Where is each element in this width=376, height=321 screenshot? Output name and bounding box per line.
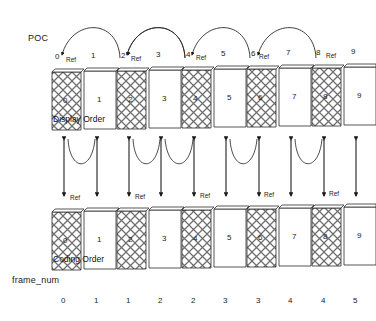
poc-ref-label-0: Ref: [66, 56, 76, 63]
poc-ref-label-3: Ref: [259, 53, 269, 60]
coding-box-label-2: 2: [128, 235, 132, 244]
poc-axis-title: POC: [28, 34, 48, 43]
poc-tick-6: 6: [251, 49, 255, 58]
order-mapping-arrows: [64, 140, 356, 196]
frame-num-axis-title: frame_num: [12, 276, 59, 285]
poc-tick-8: 8: [316, 48, 320, 57]
frame-num-tick-5: 3: [223, 296, 227, 305]
poc-tick-3: 3: [156, 50, 160, 59]
coding-order-title: Coding Order: [53, 254, 104, 264]
poc-tick-7: 7: [286, 48, 290, 57]
coding-box-label-7: 7: [292, 232, 296, 241]
coding-box-label-1: 1: [97, 235, 101, 244]
display-box-label-3: 3: [162, 94, 166, 103]
frame-num-tick-1: 1: [94, 296, 98, 305]
display-box-label-6: 6: [258, 93, 262, 102]
poc-tick-4: 4: [186, 50, 190, 59]
frame-num-tick-3: 2: [158, 296, 162, 305]
frame-num-tick-8: 4: [321, 296, 325, 305]
display-box-label-9: 9: [357, 91, 361, 100]
display-box-label-2: 2: [128, 95, 132, 104]
poc-ref-label-1: Ref: [131, 55, 141, 62]
coding-ref-label-2: Ref: [200, 192, 210, 199]
poc-tick-5: 5: [221, 49, 225, 58]
display-order-title: Display Order: [53, 114, 105, 124]
coding-box-label-0: 0: [63, 236, 67, 245]
poc-tick-9: 9: [351, 47, 355, 56]
display-box-label-8: 8: [323, 92, 327, 101]
poc-ref-label-4: Ref: [326, 52, 336, 59]
display-box-label-5: 5: [227, 93, 231, 102]
frame-num-tick-4: 2: [191, 296, 195, 305]
reorder-link-curves: [68, 139, 322, 164]
coding-box-label-3: 3: [162, 234, 166, 243]
coding-ref-label-1: Ref: [135, 193, 145, 200]
frame-num-tick-7: 4: [288, 296, 292, 305]
coding-box-label-8: 8: [323, 232, 327, 241]
display-box-label-7: 7: [292, 92, 296, 101]
poc-tick-0: 0: [55, 52, 59, 61]
diagram-canvas: POC 0 Ref 1 2 Ref 3 4 Ref 5 6 Ref 7 8 Re…: [0, 0, 376, 321]
frame-num-tick-9: 5: [353, 296, 357, 305]
display-box-label-4: 4: [193, 94, 197, 103]
poc-tick-2: 2: [121, 51, 125, 60]
poc-tick-1: 1: [91, 51, 95, 60]
coding-box-label-5: 5: [227, 233, 231, 242]
frame-num-tick-0: 0: [61, 296, 65, 305]
frame-num-tick-2: 1: [126, 296, 130, 305]
coding-box-label-9: 9: [357, 231, 361, 240]
frame-num-tick-6: 3: [256, 296, 260, 305]
coding-box-label-4: 4: [193, 234, 197, 243]
coding-ref-label-3: Ref: [264, 191, 274, 198]
coding-ref-label-0: Ref: [70, 194, 80, 201]
display-box-label-1: 1: [97, 95, 101, 104]
coding-box-label-6: 6: [258, 233, 262, 242]
display-box-label-0: 0: [63, 96, 67, 105]
coding-ref-label-4: Ref: [329, 190, 339, 197]
poc-ref-label-2: Ref: [196, 54, 206, 61]
